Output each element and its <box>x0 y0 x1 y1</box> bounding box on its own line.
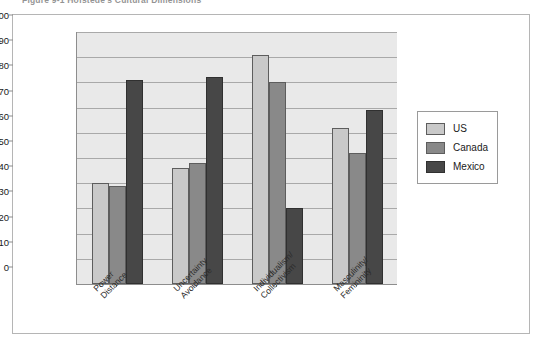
bar[interactable] <box>172 168 189 284</box>
bar[interactable] <box>126 80 143 284</box>
y-tick-mark <box>9 115 13 116</box>
document-page: Figure 9-1 Hofstede's Cultural Dimension… <box>0 0 545 353</box>
y-tick-mark <box>9 141 13 142</box>
chart-legend: USCanadaMexico <box>417 111 498 184</box>
bar-group <box>157 32 237 284</box>
bar[interactable] <box>252 55 269 284</box>
y-tick-label: 40 <box>0 161 9 172</box>
bar-group <box>317 32 397 284</box>
bars-layer <box>77 32 397 284</box>
y-tick-mark <box>9 241 13 242</box>
x-category-label: Masculinity/Femininity <box>332 287 377 306</box>
x-category-label: Individualism/Collectivism <box>252 287 304 306</box>
y-tick-mark <box>9 267 13 268</box>
plot-wrapper <box>76 32 396 284</box>
x-axis-labels: PowerDistanceUncertaintyAvoidanceIndivid… <box>76 287 396 333</box>
legend-item[interactable]: Canada <box>426 138 488 157</box>
bar[interactable] <box>366 110 383 284</box>
y-tick-label: 30 <box>0 186 9 197</box>
legend-item[interactable]: US <box>426 119 488 138</box>
y-tick-mark <box>9 216 13 217</box>
y-tick-label: 90 <box>0 35 9 46</box>
x-category-label: PowerDistance <box>92 287 125 306</box>
y-tick-label: 100 <box>0 10 9 21</box>
y-tick-label: 50 <box>0 136 9 147</box>
y-axis: 0102030405060708090100 <box>0 15 9 333</box>
y-tick-mark <box>9 15 13 16</box>
bar-group <box>237 32 317 284</box>
scan-edge <box>13 329 529 333</box>
y-tick-mark <box>9 40 13 41</box>
bar[interactable] <box>206 77 223 284</box>
legend-swatch-icon <box>426 142 445 154</box>
y-tick-label: 70 <box>0 85 9 96</box>
y-tick-label: 60 <box>0 110 9 121</box>
x-category-label: UncertaintyAvoidance <box>172 287 215 306</box>
chart-frame: 0102030405060708090100 PowerDistanceUnce… <box>12 14 530 334</box>
legend-label: Canada <box>453 142 488 153</box>
bar-group <box>77 32 157 284</box>
y-tick-label: 80 <box>0 60 9 71</box>
y-tick-mark <box>9 166 13 167</box>
legend-swatch-icon <box>426 123 445 135</box>
y-tick-mark <box>9 90 13 91</box>
legend-swatch-icon <box>426 161 445 173</box>
bar[interactable] <box>332 128 349 284</box>
bar[interactable] <box>92 183 109 284</box>
plot-area <box>76 32 397 285</box>
y-tick-mark <box>9 191 13 192</box>
figure-caption: Figure 9-1 Hofstede's Cultural Dimension… <box>22 0 442 6</box>
legend-label: US <box>453 123 467 134</box>
y-tick-label: 10 <box>0 236 9 247</box>
y-tick-label: 20 <box>0 211 9 222</box>
legend-item[interactable]: Mexico <box>426 157 488 176</box>
y-tick-mark <box>9 65 13 66</box>
legend-label: Mexico <box>453 161 485 172</box>
